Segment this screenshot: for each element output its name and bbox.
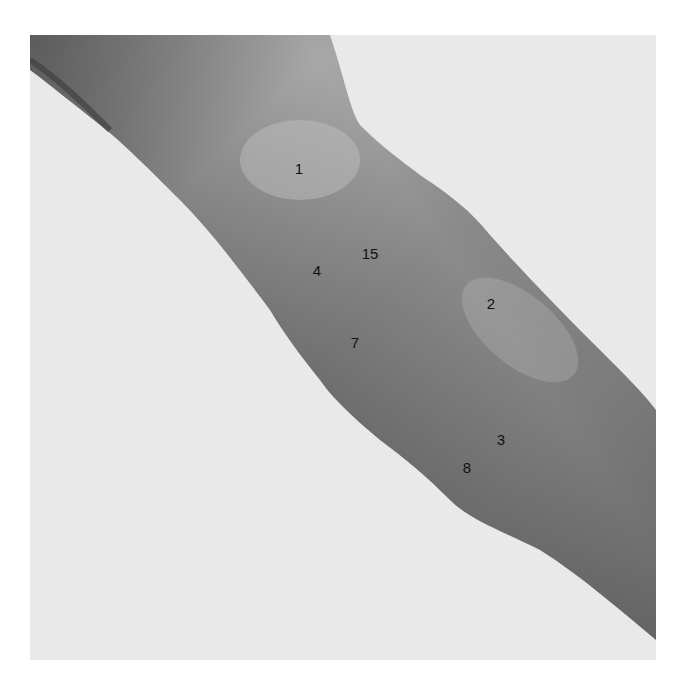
arm-photo (30, 35, 656, 660)
label-7: 7 (351, 335, 359, 350)
label-2: 2 (487, 296, 495, 311)
label-8: 8 (463, 460, 471, 475)
arm-shape (30, 35, 656, 660)
label-3: 3 (497, 432, 505, 447)
label-4: 4 (313, 263, 321, 278)
label-15: 15 (362, 246, 379, 261)
label-1: 1 (295, 161, 303, 176)
